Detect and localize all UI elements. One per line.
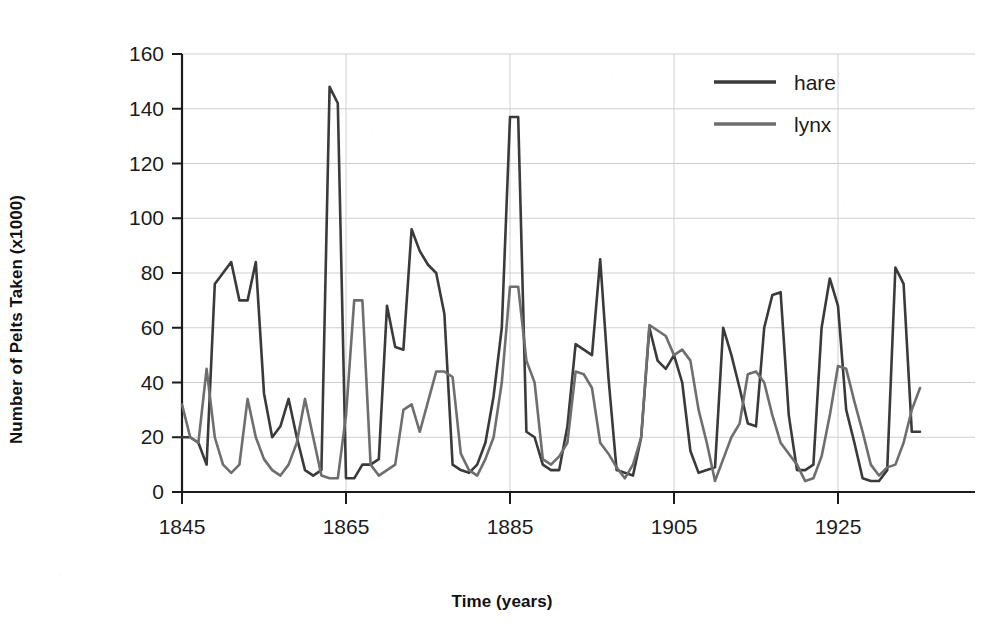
x-tick-label: 1845 (159, 515, 206, 538)
chart-plot-area: 020406080100120140160 184518651885190519… (0, 0, 1004, 639)
series-line-lynx (182, 287, 920, 481)
chart-legend: harelynx (714, 71, 836, 136)
y-axis-ticks: 020406080100120140160 (129, 42, 182, 503)
chart-figure: Number of Pelts Taken (x1000) 0204060801… (0, 0, 1004, 639)
series-line-hare (182, 87, 920, 481)
y-tick-label: 60 (141, 316, 164, 339)
y-tick-label: 160 (129, 42, 164, 65)
data-series-group (182, 87, 920, 481)
y-axis-title: Number of Pelts Taken (x1000) (0, 0, 34, 639)
legend-label-hare: hare (794, 71, 836, 94)
y-tick-label: 80 (141, 261, 164, 284)
y-tick-label: 100 (129, 206, 164, 229)
x-tick-label: 1925 (815, 515, 862, 538)
x-axis-ticks: 18451865188519051925 (159, 492, 862, 538)
x-tick-label: 1885 (487, 515, 534, 538)
x-tick-label: 1905 (651, 515, 698, 538)
x-axis-title: Time (years) (0, 592, 1004, 612)
y-tick-label: 0 (152, 480, 164, 503)
x-tick-label: 1865 (323, 515, 370, 538)
y-tick-label: 120 (129, 152, 164, 175)
y-tick-label: 140 (129, 97, 164, 120)
legend-label-lynx: lynx (794, 113, 832, 136)
gridlines (182, 54, 975, 437)
y-tick-label: 20 (141, 425, 164, 448)
y-tick-label: 40 (141, 371, 164, 394)
